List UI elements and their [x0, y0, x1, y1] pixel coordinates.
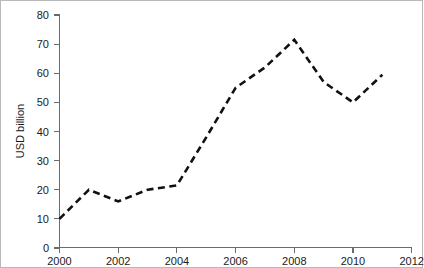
- y-tick-label: 0: [43, 242, 49, 254]
- x-tick-label: 2010: [341, 255, 365, 267]
- y-tick-label: 20: [37, 184, 49, 196]
- x-tick-label: 2002: [106, 255, 130, 267]
- x-tick-marks: [60, 248, 412, 253]
- y-tick-label: 10: [37, 213, 49, 225]
- y-tick-label: 70: [37, 38, 49, 50]
- y-tick-label: 40: [37, 126, 49, 138]
- y-tick-label: 30: [37, 155, 49, 167]
- y-tick-labels: 80 70 60 50 40 30 20 10 0: [37, 9, 49, 254]
- x-tick-label: 2004: [165, 255, 189, 267]
- x-tick-label: 2000: [47, 255, 71, 267]
- y-tick-label: 80: [37, 9, 49, 21]
- x-tick-labels: 2000 2002 2004 2006 2008 2010 2012: [47, 255, 424, 267]
- y-axis-label: USD billion: [14, 104, 26, 158]
- y-tick-label: 50: [37, 96, 49, 108]
- line-chart: 80 70 60 50 40 30 20 10 0 2000 2002 2004…: [1, 1, 424, 268]
- x-tick-label: 2012: [399, 255, 423, 267]
- x-tick-label: 2006: [223, 255, 247, 267]
- y-tick-label: 60: [37, 67, 49, 79]
- y-tick-marks: [54, 15, 60, 248]
- data-series-line: [60, 40, 383, 219]
- x-tick-label: 2008: [282, 255, 306, 267]
